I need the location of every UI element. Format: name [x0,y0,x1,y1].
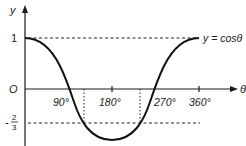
x-tick-90: 90° [53,96,69,108]
x-axis-label: θ [240,83,246,95]
y-axis-arrow-icon [22,5,28,13]
x-tick-270: 270° [153,96,176,108]
fraction-denominator: 3 [12,123,17,132]
origin-label: O [9,83,18,95]
curve-label: y = cosθ [202,32,243,44]
x-tick-180: 180° [99,96,121,108]
y-tick-one: 1 [11,32,17,44]
cosine-graph: y θ y = cosθ 1 O 90° 180° 270° 360° - 2 … [0,0,246,146]
fraction-numerator: 2 [12,113,17,122]
x-axis-arrow-icon [230,86,238,92]
y-axis-label: y [9,4,17,16]
neg-sign: - [5,116,9,128]
x-tick-360: 360° [189,96,211,108]
